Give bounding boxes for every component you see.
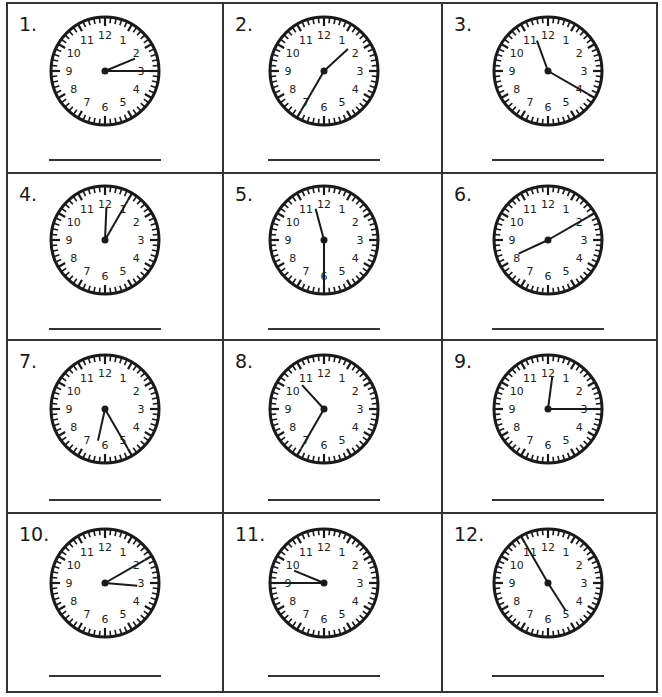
minute-tick	[542, 17, 543, 23]
minute-tick	[372, 414, 378, 415]
analog-clock: 121234567891011	[490, 182, 606, 298]
clock-numeral: 9	[509, 65, 516, 78]
minute-tick	[553, 288, 554, 294]
minute-tick	[329, 186, 330, 192]
minute-tick	[153, 245, 159, 246]
problem-number: 10.	[19, 523, 49, 545]
minute-tick	[318, 457, 319, 463]
answer-line[interactable]	[49, 675, 161, 677]
minute-tick	[329, 119, 330, 125]
clock-numeral: 6	[321, 613, 328, 626]
answer-line[interactable]	[49, 328, 161, 330]
clock-numeral: 10	[510, 559, 524, 572]
clock-numeral: 1	[563, 546, 570, 559]
clock-numeral: 2	[352, 216, 359, 229]
minute-tick	[494, 414, 500, 415]
clock-numeral: 9	[66, 403, 73, 416]
clock-numeral: 8	[70, 252, 77, 265]
clock-numeral: 4	[133, 252, 140, 265]
clock-numeral: 4	[576, 252, 583, 265]
clock-numeral: 1	[339, 546, 346, 559]
analog-clock: 121234567891011	[490, 351, 606, 467]
clock-numeral: 12	[98, 29, 112, 42]
clock-numeral: 10	[510, 216, 524, 229]
minute-tick	[596, 65, 602, 66]
minute-tick	[318, 288, 319, 294]
clock-numeral: 9	[66, 65, 73, 78]
clock-center-pivot	[545, 580, 552, 587]
minute-tick	[110, 529, 111, 535]
minute-tick	[542, 631, 543, 637]
minute-tick	[153, 577, 159, 578]
clock-numeral: 8	[289, 421, 296, 434]
answer-line[interactable]	[268, 499, 380, 501]
minute-tick	[270, 76, 276, 77]
clock-numeral: 8	[70, 83, 77, 96]
clock-numeral: 7	[84, 608, 91, 621]
minute-tick	[542, 355, 543, 361]
answer-line[interactable]	[49, 159, 161, 161]
answer-line[interactable]	[49, 499, 161, 501]
clock-numeral: 6	[321, 101, 328, 114]
minute-tick	[270, 234, 276, 235]
answer-line[interactable]	[492, 159, 604, 161]
clock-numeral: 9	[509, 403, 516, 416]
minute-tick	[542, 288, 543, 294]
problem-number: 8.	[235, 350, 253, 372]
problem-number: 1.	[19, 13, 37, 35]
clock-center-pivot	[102, 406, 109, 413]
analog-clock: 121234567891011	[266, 525, 382, 641]
minute-tick	[270, 65, 276, 66]
minute-tick	[553, 529, 554, 535]
minute-tick	[596, 76, 602, 77]
clock-numeral: 12	[541, 541, 555, 554]
clock-numeral: 9	[509, 234, 516, 247]
minute-tick	[110, 288, 111, 294]
clock-numeral: 8	[289, 83, 296, 96]
clock-numeral: 5	[120, 265, 127, 278]
clock-numeral: 5	[563, 608, 570, 621]
minute-tick	[372, 577, 378, 578]
clock-numeral: 6	[545, 101, 552, 114]
answer-line[interactable]	[492, 499, 604, 501]
clock-numeral: 11	[80, 34, 94, 47]
clock-numeral: 7	[84, 434, 91, 447]
minute-tick	[372, 65, 378, 66]
minute-tick	[329, 17, 330, 23]
minute-tick	[51, 245, 57, 246]
problem-number: 11.	[235, 523, 265, 545]
answer-line[interactable]	[268, 675, 380, 677]
problem-number: 7.	[19, 350, 37, 372]
clock-numeral: 4	[133, 421, 140, 434]
analog-clock: 121234567891011	[490, 13, 606, 129]
answer-line[interactable]	[268, 328, 380, 330]
clock-numeral: 1	[120, 546, 127, 559]
clock-numeral: 10	[510, 47, 524, 60]
clock-numeral: 8	[289, 595, 296, 608]
clock-numeral: 4	[133, 83, 140, 96]
clock-numeral: 11	[523, 203, 537, 216]
clock-numeral: 10	[67, 385, 81, 398]
minute-tick	[270, 414, 276, 415]
analog-clock: 121234567891011	[266, 13, 382, 129]
minute-tick	[51, 65, 57, 66]
minute-tick	[596, 245, 602, 246]
clock-numeral: 10	[286, 559, 300, 572]
clock-numeral: 3	[138, 577, 145, 590]
minute-tick	[596, 414, 602, 415]
minute-tick	[51, 234, 57, 235]
clock-numeral: 3	[581, 65, 588, 78]
minute-tick	[270, 588, 276, 589]
clock-numeral: 12	[317, 367, 331, 380]
clock-numeral: 8	[513, 83, 520, 96]
clock-numeral: 3	[581, 234, 588, 247]
clock-numeral: 11	[80, 203, 94, 216]
answer-line[interactable]	[268, 159, 380, 161]
answer-line[interactable]	[492, 675, 604, 677]
clock-center-pivot	[321, 406, 328, 413]
minute-tick	[494, 403, 500, 404]
minute-tick	[110, 355, 111, 361]
answer-line[interactable]	[492, 328, 604, 330]
clock-numeral: 11	[299, 203, 313, 216]
minute-tick	[270, 403, 276, 404]
